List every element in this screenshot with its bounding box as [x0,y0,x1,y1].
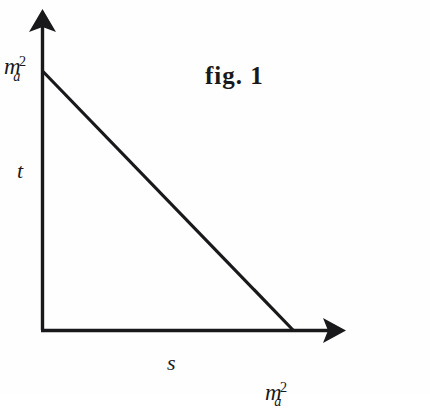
x-axis-max-label: m2a [265,379,430,408]
y-axis-max-subscript: a [13,68,20,84]
x-axis-max-subscript: a [274,393,281,409]
y-axis-max-superscript: 2 [19,53,26,69]
y-axis-name-label: t [17,160,23,182]
x-axis-name-label: s [167,352,176,374]
boundary-line [43,72,293,331]
figure-caption: fig. 1 [205,63,264,88]
